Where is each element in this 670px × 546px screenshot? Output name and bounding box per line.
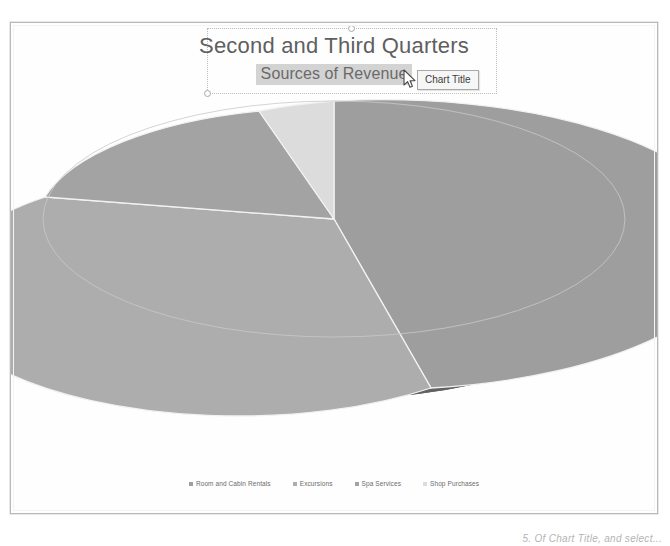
legend-item-shop-purchases[interactable]: Shop Purchases xyxy=(423,480,479,487)
pie-chart-object[interactable]: Second and Third Quarters Sources of Rev… xyxy=(11,23,657,513)
legend-swatch-icon xyxy=(355,482,359,486)
chart-title-line-1[interactable]: Second and Third Quarters xyxy=(11,33,657,59)
legend-label: Excursions xyxy=(300,480,333,487)
slide-canvas[interactable]: Second and Third Quarters Sources of Rev… xyxy=(10,22,658,514)
legend-swatch-icon xyxy=(423,482,427,486)
legend-item-excursions[interactable]: Excursions xyxy=(293,480,333,487)
legend-swatch-icon xyxy=(189,482,193,486)
chart-title-line-2-selected-text[interactable]: Sources of Revenue xyxy=(256,64,413,85)
chart-legend[interactable]: Room and Cabin Rentals Excursions Spa Se… xyxy=(11,480,657,487)
arrow-pointer-icon xyxy=(403,69,417,89)
chart-title-line-2-wrap: Sources of Revenue xyxy=(11,64,657,85)
legend-item-spa-services[interactable]: Spa Services xyxy=(355,480,402,487)
legend-swatch-icon xyxy=(293,482,297,486)
legend-item-room-and-cabin-rentals[interactable]: Room and Cabin Rentals xyxy=(189,480,271,487)
chart-title-tooltip: Chart Title xyxy=(417,70,479,90)
screenshot-root: Second and Third Quarters Sources of Rev… xyxy=(0,0,670,546)
legend-label: Spa Services xyxy=(362,480,402,487)
resize-handle-top[interactable] xyxy=(348,25,355,32)
resize-handle-bottom-left[interactable] xyxy=(204,90,211,97)
scan-artifact-text: 5. Of Chart Title, and select... xyxy=(522,533,662,544)
pie-chart-graphic[interactable] xyxy=(11,23,657,513)
legend-label: Shop Purchases xyxy=(430,480,479,487)
legend-label: Room and Cabin Rentals xyxy=(196,480,271,487)
